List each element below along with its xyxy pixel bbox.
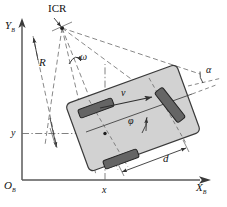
radius-arrow-top: [34, 38, 38, 60]
x-tick-label: x: [102, 185, 106, 195]
alpha-label: α: [206, 65, 211, 75]
body-axis-extension: [192, 85, 216, 94]
phi-label: φ: [128, 116, 134, 126]
icr-callout-leader: [54, 18, 61, 27]
velocity-label: v: [121, 88, 125, 98]
wheelbase-label: d: [163, 153, 169, 164]
y-axis-label: YB: [5, 20, 15, 33]
alpha-angle-group: [188, 72, 222, 87]
phi-arrow: [146, 118, 147, 131]
alpha-ref-line: [188, 78, 222, 86]
radius-label: R: [39, 57, 46, 68]
icr-marker-group: [52, 18, 72, 31]
icr-to-rear-left-line: [45, 28, 62, 145]
alpha-arc: [200, 72, 203, 84]
y-tick-label: y: [11, 128, 15, 138]
wheelbase-ext-right: [183, 140, 189, 152]
wheelbase-ext-left: [118, 164, 124, 176]
icr-label: ICR: [48, 3, 66, 14]
radius-arrow-bottom: [50, 118, 56, 147]
body-center-point: [103, 132, 106, 135]
x-axis-label: XB: [196, 182, 206, 195]
origin-label: OB: [4, 180, 16, 193]
omega-label: ω: [80, 52, 87, 62]
kinematics-diagram: [0, 0, 227, 207]
